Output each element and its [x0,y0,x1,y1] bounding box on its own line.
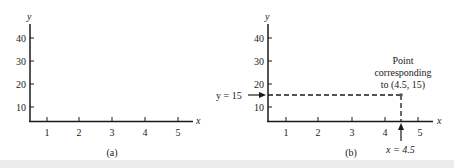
y-ticks: 40 30 20 10 [254,33,272,113]
y-tick-label: 20 [16,79,26,90]
y-tick-label: 40 [16,33,26,44]
data-point [399,93,403,97]
x-tick-label: 1 [45,127,50,138]
y-tick-label: 10 [16,102,26,113]
x-tick-label: 3 [350,127,355,138]
annotation-line-3: to (4.5, 15) [381,79,425,91]
x-tick-label: 4 [383,127,388,138]
x-tick-label: 2 [77,127,82,138]
y-tick-label: 40 [254,33,264,44]
annotation-line-1: Point [392,55,413,66]
x-ticks: 1 2 3 4 5 [45,117,181,138]
arrow-right-icon [259,92,266,98]
x-tick-label: 4 [143,127,148,138]
bottom-border [0,160,454,168]
x-tick-label: 5 [418,127,423,138]
panel-caption: (a) [106,147,117,159]
panel-a: y x 40 30 20 10 1 2 3 4 5 (a) [16,11,201,159]
x-marker-label: x = 4.5 [385,144,415,155]
panel-b: y x 40 30 20 10 1 2 3 4 5 [216,11,442,159]
x-axis-label: x [195,115,201,126]
y-tick-label: 30 [254,56,264,67]
figure: y x 40 30 20 10 1 2 3 4 5 (a) [0,0,454,168]
x-tick-label: 2 [316,127,321,138]
x-axis-label: x [436,115,442,126]
y-marker-label: y = 15 [216,90,242,101]
y-axis-label: y [264,11,270,22]
x-tick-label: 3 [110,127,115,138]
panel-caption: (b) [345,147,357,159]
arrow-up-icon [398,123,404,130]
x-tick-label: 1 [284,127,289,138]
y-ticks: 40 30 20 10 [16,33,34,113]
y-tick-label: 20 [254,79,264,90]
y-tick-label: 10 [254,102,264,113]
annotation-line-2: corresponding [374,67,431,78]
y-axis-label: y [26,11,32,22]
x-tick-label: 5 [176,127,181,138]
y-tick-label: 30 [16,56,26,67]
